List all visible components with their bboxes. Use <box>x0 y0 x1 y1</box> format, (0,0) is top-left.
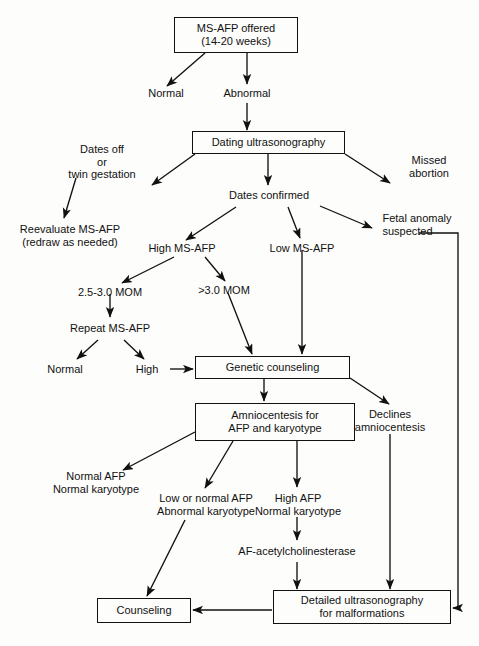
node-label: Declines amniocentesis <box>355 408 425 434</box>
node-label: MS-AFP offered (14-20 weeks) <box>197 22 275 48</box>
node-label: Normal AFP Normal karyotype <box>53 470 139 496</box>
flowchart-canvas: MS-AFP offered (14-20 weeks) Dating ultr… <box>0 0 479 646</box>
node-missed-abortion: Missed abortion <box>394 152 464 181</box>
node-repeat-ms-afp: Repeat MS-AFP <box>55 320 165 337</box>
node-label: Low MS-AFP <box>270 242 335 255</box>
node-detailed-ultrasonography[interactable]: Detailed ultrasonography for malformatio… <box>273 590 451 624</box>
node-genetic-counseling[interactable]: Genetic counseling <box>195 356 350 379</box>
node-high-afp-normal-karyotype: High AFP Normal karyotype <box>240 490 356 519</box>
node-label: Normal <box>148 87 183 100</box>
node-label: AF-acetylcholinesterase <box>238 545 355 558</box>
node-label: Dates confirmed <box>229 189 309 202</box>
node-label: Dates off or twin gestation <box>68 143 135 182</box>
node-declines-amniocentesis: Declines amniocentesis <box>340 406 440 435</box>
node-reevaluate-ms-afp: Reevaluate MS-AFP (redraw as needed) <box>10 221 130 251</box>
node-dates-off-twin-gestation: Dates off or twin gestation <box>48 142 156 182</box>
node-high-repeat: High <box>124 361 170 378</box>
node-label: Genetic counseling <box>226 361 320 374</box>
node-amniocentesis[interactable]: Amniocentesis for AFP and karyotype <box>195 403 355 441</box>
node-low-ms-afp: Low MS-AFP <box>262 240 342 257</box>
node-label: High MS-AFP <box>148 242 215 255</box>
node-label: Amniocentesis for AFP and karyotype <box>228 409 321 435</box>
node-label: 2.5-3.0 MOM <box>78 286 142 299</box>
node-dates-confirmed: Dates confirmed <box>215 187 323 204</box>
node-label: Dating ultrasonography <box>212 136 326 149</box>
node-label: >3.0 MOM <box>198 284 250 297</box>
node-normal-repeat: Normal <box>32 361 98 378</box>
node-label: High <box>136 363 159 376</box>
node-mom-greater-30: >3.0 MOM <box>178 282 270 299</box>
node-label: Abnormal <box>223 87 270 100</box>
node-label: Reevaluate MS-AFP (redraw as needed) <box>20 223 120 249</box>
node-mom-25-30: 2.5-3.0 MOM <box>59 284 161 301</box>
node-counseling[interactable]: Counseling <box>97 598 191 623</box>
node-high-ms-afp: High MS-AFP <box>141 240 223 257</box>
node-label: Counseling <box>116 604 171 617</box>
node-label: High AFP Normal karyotype <box>255 492 341 518</box>
node-af-acetylcholinesterase: AF-acetylcholinesterase <box>218 543 376 560</box>
node-label: Detailed ultrasonography for malformatio… <box>301 594 423 620</box>
node-label: Missed abortion <box>409 154 449 180</box>
node-label: Repeat MS-AFP <box>70 322 150 335</box>
node-ms-afp-offered[interactable]: MS-AFP offered (14-20 weeks) <box>174 17 298 53</box>
node-label: Normal <box>47 363 82 376</box>
node-fetal-anomaly-suspected: Fetal anomaly suspected <box>372 210 462 239</box>
node-dating-ultrasonography[interactable]: Dating ultrasonography <box>192 131 345 154</box>
node-abnormal-top: Abnormal <box>208 85 286 102</box>
node-label: Fetal anomaly suspected <box>382 212 451 238</box>
node-normal-top: Normal <box>124 85 208 102</box>
